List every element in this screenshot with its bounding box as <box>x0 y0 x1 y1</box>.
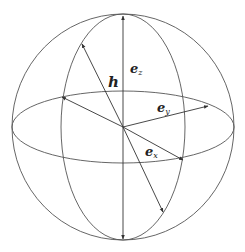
label-ex: ex <box>145 145 158 160</box>
label-ez: ez <box>130 62 143 77</box>
sphere-diagram <box>0 0 245 252</box>
label-h: h <box>108 75 119 90</box>
left-arrow <box>62 97 123 127</box>
lower-arrow <box>123 127 163 212</box>
label-ey: ey <box>157 101 170 116</box>
